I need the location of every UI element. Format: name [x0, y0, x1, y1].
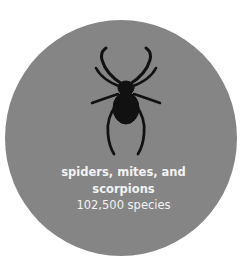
species-count: 102,500 species — [0, 198, 247, 212]
category-title-line2: scorpions — [0, 181, 247, 198]
category-title-line1: spiders, mites, and — [0, 164, 247, 181]
category-title: spiders, mites, and scorpions — [0, 164, 247, 198]
spider-icon — [88, 46, 164, 158]
